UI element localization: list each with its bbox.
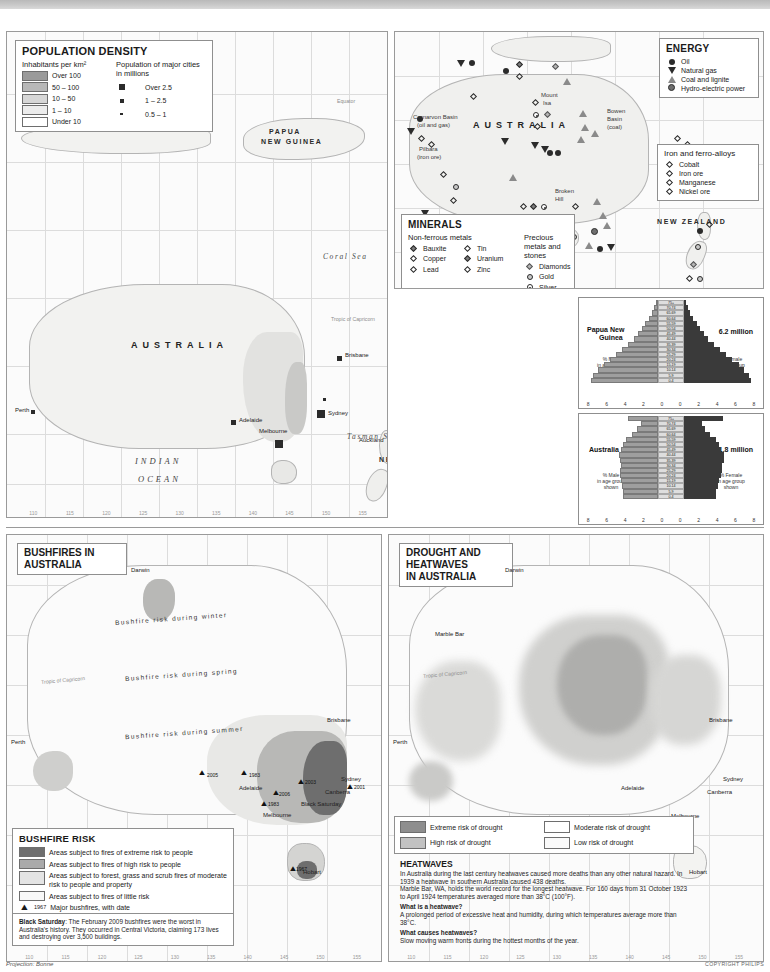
- pyr-tick: 0: [653, 517, 671, 523]
- drought-label-low: Low risk of drought: [574, 838, 633, 847]
- uranium-icon: [462, 256, 473, 261]
- drought-label-perth: Perth: [393, 739, 407, 745]
- precious-heading: Precious metals and stones: [524, 233, 571, 260]
- heatwaves-paragraph-2: Marble Bar, WA, holds the world record f…: [400, 885, 688, 900]
- drought-zone-extreme-central: [557, 635, 647, 735]
- bushfire-label-darwin: Darwin: [131, 567, 150, 573]
- energy-label-hydro-electric-power: Hydro-electric power: [681, 84, 752, 93]
- iron-legend-title: Iron and ferro-alloys: [664, 149, 752, 158]
- black-saturday-note: Black Saturday: The February 2009 bushfi…: [12, 913, 234, 946]
- projection-note: Projection: Bonne: [6, 961, 53, 967]
- lon-tick: 135: [575, 954, 611, 960]
- pyr-tick: 4: [616, 517, 634, 523]
- bushfire-date-2005: 2005: [207, 772, 218, 778]
- city-label-adelaide: Adelaide: [239, 417, 262, 423]
- population-map-longitude-axis: 110 115 120 125 130 135 140 145 150 155: [15, 510, 381, 516]
- mineral-label-uranium: Uranium: [477, 254, 503, 263]
- drought-label-sydney: Sydney: [723, 776, 743, 782]
- drought-heatwaves-map-panel: DROUGHT ANDHEATWAVESIN AUSTRALIA Darwin …: [388, 534, 764, 962]
- city-marker-brisbane: [337, 356, 342, 361]
- city-label-auckland: Auckland: [359, 437, 384, 443]
- bushfire-date-1967: 1967: [296, 866, 307, 872]
- resources-label-broken-hill-line1: Broken: [555, 188, 574, 194]
- drought-label-darwin: Darwin: [505, 567, 524, 573]
- minerals-legend: MINERALS Non-ferrous metals Bauxite Cop: [401, 214, 575, 289]
- energy-legend-row: Coal and lignite: [666, 75, 752, 84]
- resources-label-new-zealand: NEW ZEALAND: [657, 218, 726, 225]
- bushfire-marker-legend-date: 1967: [34, 903, 46, 912]
- bushfire-legend-row: Areas subject to fires of little risk: [19, 891, 227, 901]
- lon-tick: 125: [120, 954, 156, 960]
- map-label-papua-new-guinea-line2: NEW GUINEA: [261, 138, 323, 145]
- city-label-melbourne: Melbourne: [259, 428, 287, 434]
- drought-label-moderate: Moderate risk of drought: [574, 823, 650, 832]
- bushfire-marker-icon: ⛰: [347, 783, 353, 791]
- bushfire-legend-row: Areas subject to fires of high risk to p…: [19, 859, 227, 869]
- pyr-tick: 4: [708, 401, 726, 407]
- precious-legend-row: Diamonds: [524, 262, 571, 271]
- city-class-row: 1 – 2.5: [116, 96, 206, 105]
- drought-risk-legend: Extreme risk of drought High risk of dro…: [394, 816, 694, 854]
- lon-tick: 145: [271, 510, 308, 516]
- bushfire-marker-icon: ⛰: [241, 769, 247, 777]
- bushfire-marker-legend-label: Major bushfires, with date: [50, 903, 130, 912]
- iron-label-nickel-ore: Nickel ore: [679, 187, 710, 196]
- lon-tick: 110: [11, 954, 47, 960]
- bushfire-label-little: Areas subject to fires of little risk: [49, 892, 149, 901]
- city-marker-sydney: [317, 410, 325, 418]
- bushfire-label-brisbane: Brisbane: [327, 717, 351, 723]
- natural-gas-icon: [666, 67, 677, 74]
- resources-new-guinea-landmass: [491, 36, 611, 62]
- city-label-sydney: Sydney: [328, 410, 348, 416]
- drought-legend-row: Low risk of drought: [544, 836, 688, 850]
- city-square-medium-icon: [116, 99, 127, 103]
- nickel-ore-icon: [664, 189, 675, 194]
- bushfire-date-2006: 2006: [279, 791, 290, 797]
- map-label-coral-sea: Coral Sea: [323, 252, 368, 261]
- mineral-legend-row: Copper: [408, 254, 460, 263]
- bushfire-risk-zone-wa: [33, 751, 73, 791]
- heatwaves-paragraph-1: In Australia during the last century hea…: [400, 870, 688, 885]
- bushfire-legend-marker-row: ⛰ 1967 Major bushfires, with date: [19, 903, 227, 912]
- city-label-over-2-5: Over 2.5: [145, 83, 172, 92]
- resources-label-broken-hill-line2: Hill: [555, 196, 563, 202]
- pyr-tick: 6: [726, 517, 744, 523]
- resources-label-australia: AUSTRALIA: [473, 120, 570, 130]
- bushfire-swatch-little: [19, 891, 45, 901]
- bushfire-date-1983a: 1983: [249, 772, 260, 778]
- bushfire-label-extreme: Areas subject to fires of extreme risk t…: [49, 848, 193, 857]
- pyramid-axis-png: 8 6 4 2 0 0 2 4 6 8: [579, 401, 763, 407]
- bushfire-label-moderate: Areas subject to forest, grass and scrub…: [49, 871, 227, 889]
- bushfires-map-panel: BUSHFIRES INAUSTRALIA Bushfire risk duri…: [6, 534, 382, 962]
- precious-label-silver: Silver: [539, 283, 557, 290]
- precious-legend-row: Silver: [524, 283, 571, 290]
- lon-tick: 155: [721, 954, 757, 960]
- pyr-tick: 2: [634, 401, 652, 407]
- drought-legend-row: Extreme risk of drought: [400, 820, 538, 834]
- energy-minerals-map-panel: AUSTRALIA NEW ZEALAND Mount Isa Carnarvo…: [394, 31, 764, 289]
- city-label-1-2-5: 1 – 2.5: [145, 96, 166, 105]
- density-label-1-10: 1 – 10: [52, 106, 71, 115]
- drought-zone-high-east: [651, 655, 721, 745]
- mineral-legend-row: Bauxite: [408, 244, 460, 253]
- density-class-row: 1 – 10: [22, 105, 108, 115]
- iron-ferroalloys-legend: Iron and ferro-alloys Cobalt Iron ore Ma…: [657, 144, 759, 201]
- pyr-tick: 2: [689, 401, 707, 407]
- bushfire-marker-icon: ⛰: [261, 800, 267, 808]
- precious-legend-row: Gold: [524, 272, 571, 281]
- bushfire-label-adelaide: Adelaide: [239, 785, 262, 791]
- city-marker-adelaide: [231, 420, 236, 425]
- drought-label-canberra: Canberra: [707, 789, 732, 795]
- energy-label-natural-gas: Natural gas: [681, 66, 717, 75]
- heatwaves-info-block: HEATWAVES In Australia during the last c…: [394, 855, 694, 948]
- lon-tick: 125: [125, 510, 162, 516]
- bushfire-date-2003: 2003: [305, 779, 316, 785]
- drought-map-longitude-axis: 110 115 120 125 130 135 140 145 150 155: [393, 954, 757, 960]
- bushfire-legend-title: BUSHFIRE RISK: [19, 833, 227, 844]
- atlas-page: PAPUA NEW GUINEA AUSTRALIA NEW ZEALAND C…: [0, 9, 770, 972]
- bushfire-risk-legend: BUSHFIRE RISK Areas subject to fires of …: [12, 828, 234, 917]
- lon-tick: 110: [15, 510, 52, 516]
- cobalt-icon: [664, 162, 675, 167]
- city-square-large-icon: [116, 84, 127, 90]
- gold-icon: [524, 274, 535, 280]
